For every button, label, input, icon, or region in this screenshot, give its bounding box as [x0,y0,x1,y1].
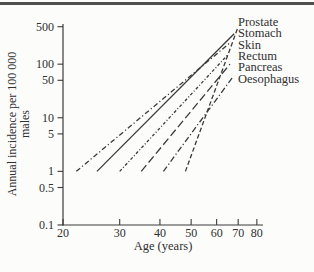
x-tick-label: 20 [57,226,69,240]
series-line-oesophagus [163,78,232,171]
y-axis-label-line2: males [19,14,32,234]
x-axis-label: Age (years) [63,239,263,254]
x-tick-label: 60 [211,226,223,240]
y-tick-label: 100 [36,57,54,71]
series-line-skin [76,43,230,172]
x-tick-label: 40 [154,226,166,240]
x-tick-label: 50 [185,226,197,240]
incidence-figure: 203040506070805001005010510.50.1Prostate… [0,0,314,272]
series-line-prostate [185,27,238,172]
series-line-rectum [120,55,228,172]
series-label-oesophagus: Oesophagus [238,72,299,86]
x-tick-label: 80 [251,226,263,240]
y-tick-label: 50 [42,73,54,87]
y-tick-label: 5 [48,127,54,141]
y-tick-label: 0.5 [39,181,54,195]
x-tick-label: 70 [232,226,244,240]
x-tick-label: 30 [114,226,126,240]
y-tick-label: 10 [42,111,54,125]
series-line-stomach [97,34,234,172]
incidence-chart: 203040506070805001005010510.50.1Prostate… [0,0,314,272]
y-tick-label: 1 [48,164,54,178]
y-axis-label: Annual incidence per 100 000 males [6,14,32,234]
y-tick-label: 0.1 [39,218,54,232]
y-tick-label: 500 [36,20,54,34]
